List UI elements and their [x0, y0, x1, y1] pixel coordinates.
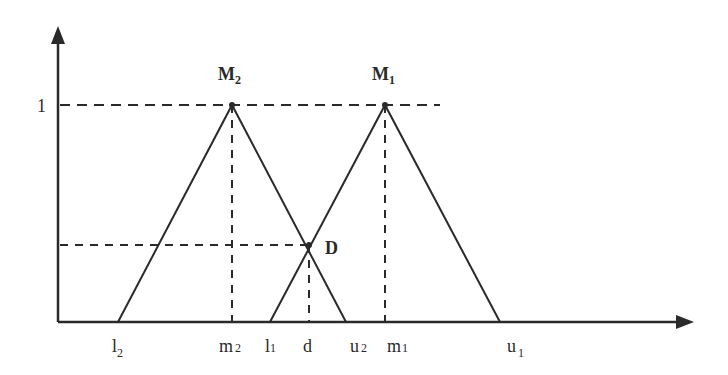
x-label-u2: u2 — [350, 336, 367, 356]
intersection-d-point — [306, 242, 312, 248]
intersection-label-d: D — [325, 238, 338, 258]
peak-m1-point — [382, 102, 388, 108]
x-label-m2: m2 — [219, 336, 241, 356]
fuzzy-number-diagram: 1 M2 M1 D l2 m2 l1 d u2 m1 u1 — [0, 0, 728, 375]
peak-m2-point — [229, 102, 235, 108]
x-axis-arrow-icon — [676, 315, 694, 329]
peak-label-m2: M2 — [218, 64, 241, 87]
x-label-d: d — [303, 336, 312, 356]
x-label-m1: m1 — [387, 336, 408, 356]
peak-label-m1: M1 — [372, 64, 395, 87]
x-label-l1: l1 — [265, 336, 276, 356]
diagram-canvas: 1 M2 M1 D l2 m2 l1 d u2 m1 u1 — [0, 0, 728, 375]
y-axis-arrow-icon — [51, 26, 65, 44]
x-label-l2: l2 — [112, 336, 123, 360]
x-label-u1: u1 — [507, 336, 524, 360]
y-label-one: 1 — [37, 96, 46, 116]
